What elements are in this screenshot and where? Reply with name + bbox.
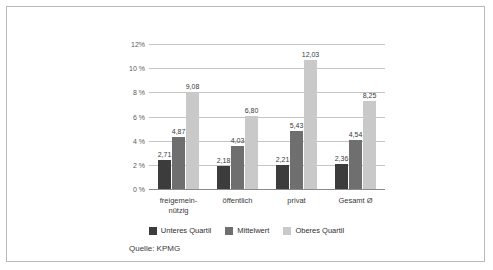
bar-value-label: 12,03 <box>302 51 320 58</box>
y-axis-tick-label: 2 % <box>133 161 145 168</box>
y-axis-tick-label: 4 % <box>133 137 145 144</box>
legend-label: Oberes Quartil <box>295 226 344 235</box>
bar-group: 2,364,548,25Gesamt Ø <box>335 32 376 189</box>
axis-line-zero <box>149 189 385 190</box>
bar-value-label: 4,03 <box>231 137 245 144</box>
bar[interactable]: 8,25 <box>363 101 376 189</box>
bar[interactable]: 5,43 <box>290 131 303 189</box>
x-axis-category-line: privat <box>268 196 326 206</box>
y-axis-tick-label: 0 % <box>133 186 145 193</box>
bar-value-label: 9,08 <box>186 83 200 90</box>
bar-value-label: 6,80 <box>245 107 259 114</box>
bar[interactable]: 6,80 <box>245 116 258 189</box>
legend-swatch-icon <box>149 227 157 235</box>
legend-label: Mittelwert <box>237 226 269 235</box>
bar-group: 2,215,4312,03privat <box>276 32 317 189</box>
bar-value-label: 2,36 <box>335 155 349 162</box>
x-axis-category-line: nützig <box>150 206 208 216</box>
chart-card: 0 %2 %4 %6 %8 %10 %12% 2,714,879,08freig… <box>6 6 485 262</box>
bar[interactable]: 4,54 <box>349 140 362 189</box>
bar-group: 2,184,036,80öffentlich <box>217 32 258 189</box>
bar[interactable]: 9,08 <box>186 92 199 189</box>
legend-item[interactable]: Unteres Quartil <box>149 226 211 235</box>
x-axis-category-label: öffentlich <box>209 196 267 206</box>
bar-value-label: 4,54 <box>349 131 363 138</box>
bar-group: 2,714,879,08freigemein-nützig <box>158 32 199 189</box>
y-axis-tick-label: 6 % <box>133 113 145 120</box>
y-axis-tick-label: 12% <box>131 41 145 48</box>
x-axis-category-label: Gesamt Ø <box>327 196 385 206</box>
x-axis-category-label: freigemein-nützig <box>150 196 208 216</box>
bar-value-label: 2,21 <box>276 156 290 163</box>
bar[interactable]: 4,03 <box>231 146 244 189</box>
x-axis-category-line: Gesamt Ø <box>327 196 385 206</box>
y-axis-tick-label: 10 % <box>129 65 145 72</box>
bar-value-label: 2,18 <box>217 157 231 164</box>
source-note: Quelle: KPMG <box>129 244 180 253</box>
legend-item[interactable]: Mittelwert <box>225 226 269 235</box>
bar[interactable]: 12,03 <box>304 60 317 189</box>
legend-swatch-icon <box>225 227 233 235</box>
x-axis-category-line: öffentlich <box>209 196 267 206</box>
x-axis-category-line: freigemein- <box>150 196 208 206</box>
bar-value-label: 5,43 <box>290 122 304 129</box>
chart-legend: Unteres QuartilMittelwertOberes Quartil <box>7 226 486 235</box>
bar[interactable]: 2,21 <box>276 165 289 189</box>
bar[interactable]: 2,36 <box>335 164 348 189</box>
legend-label: Unteres Quartil <box>161 226 211 235</box>
bar[interactable]: 2,71 <box>158 160 171 189</box>
bar-value-label: 4,87 <box>172 128 186 135</box>
y-axis-tick-label: 8 % <box>133 89 145 96</box>
legend-swatch-icon <box>283 227 291 235</box>
plot-area: 0 %2 %4 %6 %8 %10 %12% 2,714,879,08freig… <box>149 32 385 189</box>
bar[interactable]: 2,18 <box>217 166 230 189</box>
x-axis-category-label: privat <box>268 196 326 206</box>
bar[interactable]: 4,87 <box>172 137 185 189</box>
bar-value-label: 8,25 <box>363 92 377 99</box>
legend-item[interactable]: Oberes Quartil <box>283 226 344 235</box>
bar-chart: 0 %2 %4 %6 %8 %10 %12% 2,714,879,08freig… <box>7 7 486 263</box>
bar-value-label: 2,71 <box>158 151 172 158</box>
